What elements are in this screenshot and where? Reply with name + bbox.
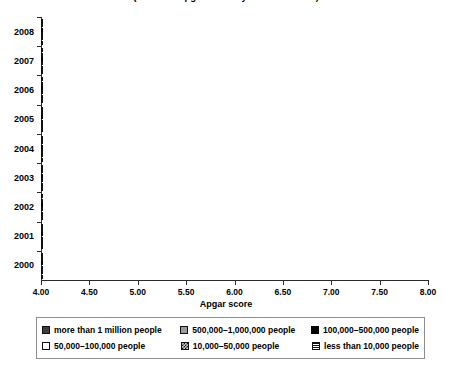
bar-fill xyxy=(41,158,43,162)
legend-label: 100,000–500,000 people xyxy=(323,325,419,335)
y-tick-label-2004: 2004 xyxy=(0,144,34,154)
legend-item-10k-50k[interactable]: 10,000–50,000 people xyxy=(181,341,312,351)
legend-label: less than 10,000 people xyxy=(324,341,419,351)
bar-fill xyxy=(41,128,43,132)
bar-fill xyxy=(41,275,43,279)
chart-legend: more than 1 million people 500,000–1,000… xyxy=(36,317,425,359)
x-tick-mark xyxy=(331,281,332,285)
bar-fill xyxy=(41,70,43,74)
bar-group-2001 xyxy=(41,222,428,251)
bar xyxy=(41,275,210,279)
legend-item-500k-1m[interactable]: 500,000–1,000,000 people xyxy=(180,325,311,335)
x-tick-label-5.50: 5.50 xyxy=(166,287,206,297)
bar-group-2002 xyxy=(41,192,428,221)
x-axis-title: Apgar score xyxy=(0,299,452,309)
bar-fill xyxy=(41,99,43,103)
x-tick-label-6.50: 6.50 xyxy=(263,287,303,297)
x-tick-mark xyxy=(89,281,90,285)
dark-gray-swatch-icon xyxy=(42,326,50,334)
y-tick-label-2007: 2007 xyxy=(0,56,34,66)
white-swatch-icon xyxy=(42,342,50,350)
x-tick-mark xyxy=(186,281,187,285)
bar xyxy=(41,99,215,103)
y-tick-mark xyxy=(37,46,41,47)
y-tick-mark xyxy=(37,222,41,223)
legend-label: 500,000–1,000,000 people xyxy=(192,325,295,335)
x-tick-mark xyxy=(428,281,429,285)
y-tick-mark xyxy=(37,192,41,193)
mid-gray-swatch-icon xyxy=(180,326,188,334)
horizontal-lines-swatch-icon xyxy=(312,342,320,350)
bar-group-2005 xyxy=(41,105,428,134)
crosshatch-swatch-icon xyxy=(181,342,189,350)
black-swatch-icon xyxy=(311,326,319,334)
bar xyxy=(41,41,273,45)
y-tick-mark xyxy=(37,251,41,252)
bar-fill xyxy=(41,245,43,249)
x-tick-label-7.00: 7.00 xyxy=(311,287,351,297)
bar-group-2004 xyxy=(41,134,428,163)
legend-label: 10,000–50,000 people xyxy=(193,341,279,351)
y-tick-mark xyxy=(37,17,41,18)
x-tick-label-8.00: 8.00 xyxy=(408,287,448,297)
legend-item-100k-500k[interactable]: 100,000–500,000 people xyxy=(311,325,419,335)
x-tick-mark xyxy=(235,281,236,285)
y-tick-label-2002: 2002 xyxy=(0,202,34,212)
bar xyxy=(41,187,196,191)
legend-item-more-than-1-million[interactable]: more than 1 million people xyxy=(42,325,180,335)
y-tick-label-2000: 2000 xyxy=(0,260,34,270)
x-tick-mark xyxy=(283,281,284,285)
x-tick-label-7.50: 7.50 xyxy=(360,287,400,297)
y-tick-label-2005: 2005 xyxy=(0,114,34,124)
apgar-score-bar-chart: (Neonatal Apgar Score by Year 2000-2008)… xyxy=(0,0,452,366)
bar-group-2007 xyxy=(41,46,428,75)
bar-group-2000 xyxy=(41,251,428,280)
bar-fill xyxy=(41,41,43,45)
x-tick-label-4.50: 4.50 xyxy=(69,287,109,297)
bar xyxy=(41,128,176,132)
bar-group-2006 xyxy=(41,75,428,104)
legend-item-less-than-10k[interactable]: less than 10,000 people xyxy=(312,341,419,351)
y-tick-mark xyxy=(37,105,41,106)
x-tick-label-5.00: 5.00 xyxy=(118,287,158,297)
bar-group-2003 xyxy=(41,163,428,192)
x-tick-mark xyxy=(380,281,381,285)
x-tick-mark xyxy=(41,281,42,285)
legend-row: 50,000–100,000 people 10,000–50,000 peop… xyxy=(42,338,419,354)
y-tick-mark xyxy=(37,75,41,76)
x-tick-label-4.00: 4.00 xyxy=(21,287,61,297)
y-tick-label-2006: 2006 xyxy=(0,85,34,95)
x-tick-mark xyxy=(138,281,139,285)
bar-fill xyxy=(41,216,43,220)
bar xyxy=(41,216,210,220)
y-tick-mark xyxy=(37,163,41,164)
legend-item-50k-100k[interactable]: 50,000–100,000 people xyxy=(42,341,181,351)
bar xyxy=(41,158,220,162)
bar xyxy=(41,70,205,74)
legend-label: 50,000–100,000 people xyxy=(54,341,145,351)
legend-row: more than 1 million people 500,000–1,000… xyxy=(42,322,419,338)
x-tick-label-6.00: 6.00 xyxy=(215,287,255,297)
y-tick-label-2008: 2008 xyxy=(0,27,34,37)
y-tick-label-2003: 2003 xyxy=(0,173,34,183)
bar-fill xyxy=(41,187,43,191)
y-tick-label-2001: 2001 xyxy=(0,231,34,241)
bar-group-2008 xyxy=(41,17,428,46)
bar xyxy=(41,245,191,249)
chart-title: (Neonatal Apgar Score by Year 2000-2008) xyxy=(0,0,452,2)
legend-label: more than 1 million people xyxy=(54,325,162,335)
plot-area xyxy=(41,17,428,279)
y-tick-mark xyxy=(37,134,41,135)
